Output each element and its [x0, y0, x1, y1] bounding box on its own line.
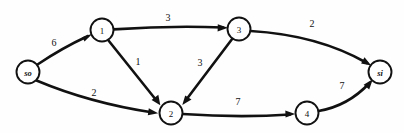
- node-layer: so 1 3 si 2 4: [17, 18, 392, 125]
- edge-weight-so-1: 6: [52, 37, 57, 48]
- edge-weight-1-2: 1: [136, 56, 141, 67]
- edge-weight-1-3: 3: [166, 12, 171, 23]
- edge-1-to-2: [109, 41, 161, 106]
- node-1-label: 1: [100, 26, 105, 36]
- edge-weight-3-2: 3: [198, 57, 203, 68]
- edge-1-to-2-line: [109, 41, 157, 101]
- edge-3-to-2-arrowhead: [182, 95, 191, 105]
- edge-1-to-3: [114, 24, 229, 31]
- edge-so-to-2-arrowhead: [148, 108, 158, 115]
- edge-1-to-3-arrowhead: [218, 24, 228, 31]
- edge-3-to-2: [182, 39, 232, 106]
- node-2[interactable]: 2: [160, 102, 183, 125]
- edge-weight-2-4: 7: [236, 96, 241, 107]
- graph-canvas: so 1 3 si 2 4 6: [0, 0, 404, 133]
- node-3[interactable]: 3: [228, 18, 251, 41]
- node-3-label: 3: [237, 25, 242, 35]
- edge-4-to-si: [319, 79, 373, 111]
- edge-3-to-si-arrowhead: [361, 57, 371, 65]
- edge-weight-4-si: 7: [340, 80, 345, 91]
- graph-figure: so 1 3 si 2 4 6: [0, 0, 404, 133]
- edge-1-to-3-line: [114, 27, 224, 30]
- edge-2-to-4: [183, 110, 296, 117]
- node-so-label: so: [23, 68, 32, 78]
- edge-2-to-4-line: [183, 114, 291, 116]
- node-si-label: si: [376, 68, 383, 78]
- edge-weight-so-2: 2: [92, 87, 97, 98]
- edge-2-to-4-arrowhead: [285, 110, 295, 117]
- edge-layer: [37, 24, 373, 117]
- node-1[interactable]: 1: [91, 19, 114, 42]
- edge-so-to-1: [38, 34, 93, 65]
- edge-so-to-1-line: [38, 36, 89, 65]
- edge-3-to-si-line: [251, 31, 368, 63]
- edge-so-to-2: [37, 81, 159, 116]
- node-4[interactable]: 4: [296, 102, 319, 125]
- node-4-label: 4: [305, 109, 310, 119]
- edge-3-to-si: [251, 31, 372, 66]
- edge-3-to-2-line: [186, 39, 233, 101]
- edge-weight-3-si: 2: [310, 18, 315, 29]
- node-so[interactable]: so: [17, 61, 40, 84]
- node-si[interactable]: si: [369, 61, 392, 84]
- node-2-label: 2: [169, 109, 174, 119]
